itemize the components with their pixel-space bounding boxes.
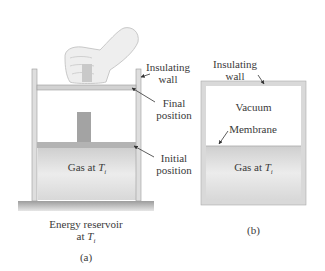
panel-a	[18, 28, 155, 211]
hand-icon	[65, 28, 138, 84]
label-line: Energy reservoir	[18, 218, 154, 230]
temperature-subscript: i	[104, 168, 106, 176]
label-line: Insulating	[210, 58, 260, 70]
label-gas-a: Gas at Ti	[38, 161, 136, 178]
weight-block	[77, 112, 91, 142]
label-line: at Ti	[18, 230, 154, 247]
label-membrane: Membrane	[218, 123, 288, 135]
label-insulating-wall-b: Insulating wall	[210, 58, 260, 82]
label-initial-position: Initial position	[152, 152, 196, 176]
label-line: Initial	[152, 152, 196, 164]
right-wall-a	[136, 69, 141, 201]
caption-a: (a)	[18, 251, 154, 263]
gas-text: Gas at	[68, 161, 99, 173]
final-piston	[37, 85, 136, 90]
vacuum-region	[206, 86, 301, 146]
label-line: position	[152, 164, 196, 176]
energy-reservoir	[18, 201, 154, 211]
temperature-subscript: i	[271, 168, 273, 176]
label-gas-b: Gas at Ti	[206, 161, 301, 178]
label-insulating-wall-a: Insulating wall	[143, 61, 193, 85]
initial-piston	[37, 142, 136, 148]
label-line: Insulating	[143, 61, 193, 73]
left-wall-a	[32, 69, 37, 201]
label-line: Final	[152, 97, 196, 109]
panel-b	[201, 75, 306, 205]
label-line: wall	[210, 70, 260, 82]
gas-text: Gas at	[234, 161, 265, 173]
label-energy-reservoir: Energy reservoir at Ti	[18, 218, 154, 247]
label-final-position: Final position	[152, 97, 196, 121]
label-line: wall	[143, 73, 193, 85]
label-line: position	[152, 109, 196, 121]
at-text: at	[77, 230, 88, 242]
caption-b: (b)	[201, 224, 306, 236]
temperature-subscript: i	[93, 237, 95, 245]
label-vacuum: Vacuum	[206, 101, 301, 113]
